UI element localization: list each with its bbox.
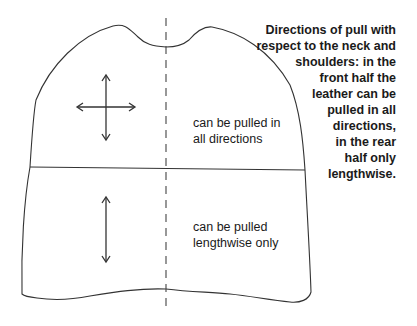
front-region-label: can be pulled in all directions: [193, 115, 281, 147]
front-label-line: all directions: [193, 131, 281, 147]
front-label-line: can be pulled in: [193, 115, 281, 131]
vertical-double-arrow-icon: [102, 197, 110, 262]
caption-line: half only: [216, 150, 396, 166]
rear-label-line: can be pulled: [193, 219, 278, 235]
caption-line: leather can be: [216, 86, 396, 102]
caption-line: respect to the neck and: [216, 38, 396, 54]
rear-label-line: lengthwise only: [193, 235, 278, 251]
caption-line: front half the: [216, 70, 396, 86]
caption-line: lengthwise.: [216, 166, 396, 182]
caption-line: Directions of pull with: [216, 22, 396, 38]
diagram-caption: Directions of pull with respect to the n…: [216, 22, 396, 182]
rear-region-label: can be pulled lengthwise only: [193, 219, 278, 251]
four-way-arrow-icon: [77, 75, 135, 140]
caption-line: shoulders: in the: [216, 54, 396, 70]
